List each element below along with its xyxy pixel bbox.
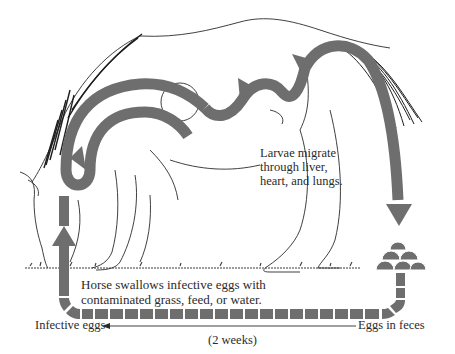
timeline-arrow [102,323,356,329]
ingestion-arrow-upper [59,196,69,226]
grass-ground [25,262,360,268]
egg-cluster [376,242,426,270]
ingestion-label: Horse swallows infective eggs with conta… [81,277,266,307]
migration-label: Larvae migrate through liver, heart, and… [260,146,343,188]
ingestion-arrow-shaft [59,246,69,296]
migration-label-line-1: Larvae migrate [260,146,343,160]
infective-eggs-label: Infective eggs [35,318,105,332]
duration-label: (2 weeks) [208,333,257,347]
eggs-in-feces-label: Eggs in feces [358,318,425,332]
migration-label-line-2: through liver, [260,160,343,174]
migration-label-line-3: heart, and lungs. [260,174,343,188]
ingestion-label-line-1: Horse swallows infective eggs with [81,277,266,292]
arrowheads [52,54,412,246]
ingestion-label-line-2: contaminated grass, feed, or water. [81,292,266,307]
